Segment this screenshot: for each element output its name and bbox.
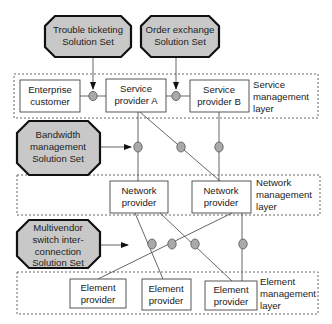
- multivendor-label-4: Solution Set: [32, 257, 84, 268]
- element-2-label-1: Element: [148, 283, 184, 294]
- element-layer-label-1: Element: [260, 276, 296, 287]
- multivendor-label-1: Multivendor: [33, 222, 83, 233]
- node-icon[interactable]: [215, 142, 223, 152]
- node-icon[interactable]: [191, 239, 199, 249]
- element-3-label-1: Element: [213, 284, 249, 295]
- box-service-provider-b[interactable]: Service provider B: [190, 80, 249, 112]
- service-layer-label-3: layer: [253, 103, 275, 114]
- element-1-label-1: Element: [80, 282, 116, 293]
- solution-set-trouble-ticketing[interactable]: Trouble ticketing Solution Set: [45, 16, 131, 57]
- enterprise-label-2: customer: [30, 96, 70, 107]
- trouble-ticketing-label-1: Trouble ticketing: [53, 24, 123, 35]
- network-2-label-1: Network: [203, 185, 238, 196]
- solution-set-multivendor-switch[interactable]: Multivendor switch inter- connection Sol…: [17, 220, 100, 268]
- network-layer-label-2: management: [256, 189, 312, 200]
- network-1-label-2: provider: [122, 197, 157, 208]
- enterprise-label-1: Enterprise: [28, 84, 72, 95]
- element-layer-label-2: management: [260, 288, 316, 299]
- order-exchange-label-2: Solution Set: [154, 36, 206, 47]
- element-3-label-2: provider: [214, 296, 249, 307]
- bandwidth-label-2: management: [30, 141, 86, 152]
- network-2-label-2: provider: [204, 197, 239, 208]
- network-layer-label-1: Network: [256, 177, 291, 188]
- box-service-provider-a[interactable]: Service provider A: [106, 79, 166, 112]
- solution-set-order-exchange[interactable]: Order exchange Solution Set: [141, 16, 219, 57]
- multivendor-label-3: connection: [35, 246, 81, 257]
- node-icon[interactable]: [239, 239, 247, 249]
- solution-set-bandwidth-management[interactable]: Bandwidth management Solution Set: [17, 121, 100, 175]
- node-icon[interactable]: [172, 91, 180, 100]
- service-layer-label-1: Service: [253, 79, 285, 90]
- node-icon[interactable]: [89, 91, 97, 100]
- node-icon[interactable]: [168, 239, 176, 249]
- service-layer-label-2: management: [253, 91, 309, 102]
- node-icon[interactable]: [177, 142, 185, 152]
- box-network-provider-2[interactable]: Network provider: [192, 181, 251, 213]
- box-element-provider-1[interactable]: Element provider: [70, 279, 126, 308]
- network-layer-label-3: layer: [256, 201, 278, 212]
- interface-nodes: [89, 91, 247, 249]
- element-2-label-2: provider: [149, 295, 184, 306]
- box-enterprise-customer[interactable]: Enterprise customer: [20, 80, 80, 112]
- bandwidth-label-1: Bandwidth: [36, 129, 81, 140]
- element-1-label-2: provider: [81, 294, 116, 305]
- box-element-provider-3[interactable]: Element provider: [205, 281, 257, 310]
- service-b-label-2: provider B: [197, 96, 241, 107]
- order-exchange-label-1: Order exchange: [146, 24, 215, 35]
- node-icon[interactable]: [134, 142, 142, 152]
- box-network-provider-1[interactable]: Network provider: [110, 181, 168, 213]
- bandwidth-label-3: Solution Set: [32, 153, 84, 164]
- network-management-layer: Network management layer: [17, 175, 320, 215]
- element-layer-label-3: layer: [260, 300, 282, 311]
- trouble-ticketing-label-2: Solution Set: [62, 36, 114, 47]
- multivendor-label-2: switch inter-: [32, 234, 83, 245]
- node-icon[interactable]: [148, 239, 156, 249]
- telecom-management-diagram: Service management layer Network managem…: [0, 0, 332, 324]
- service-b-label-1: Service: [203, 84, 235, 95]
- network-1-label-1: Network: [121, 185, 156, 196]
- box-element-provider-2[interactable]: Element provider: [142, 279, 191, 310]
- service-a-label-2: provider A: [114, 95, 158, 106]
- service-a-label-1: Service: [120, 83, 152, 94]
